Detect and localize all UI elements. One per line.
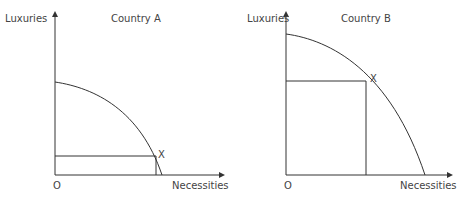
point-x-label: X [158,149,165,160]
diagram-title: Country A [111,13,161,24]
y-axis-label: Luxuries [5,13,47,24]
x-axis-label: Necessities [400,180,457,191]
diagram-country-a: Luxuries Country A O Necessities X [5,13,229,191]
diagram-country-b: Luxuries Country B O Necessities X [247,13,457,191]
ppf-curve [286,34,425,175]
y-axis-label: Luxuries [247,13,289,24]
origin-label: O [53,180,61,191]
ppf-curve [55,82,162,175]
ppf-diagrams: Luxuries Country A O Necessities X Luxur… [0,0,467,198]
point-x-label: X [370,73,377,84]
diagram-title: Country B [341,13,391,24]
x-axis-label: Necessities [172,180,229,191]
origin-label: O [284,180,292,191]
